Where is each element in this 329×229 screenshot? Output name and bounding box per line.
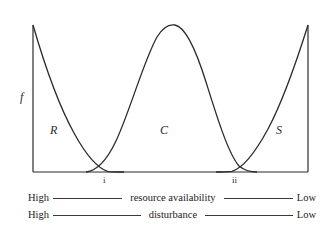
gradient-right-label-resource: Low [297, 192, 316, 203]
gradient-rule-right-disturbance [205, 215, 293, 216]
gradient-row-disturbance: High disturbance Low [28, 207, 316, 222]
y-axis-label: f [20, 91, 23, 103]
tick-label-crossing-right: ii [232, 176, 237, 185]
region-label-r: R [50, 124, 58, 136]
gradient-left-label-resource: High [28, 192, 49, 203]
figure-container: f R C S i ii High resource availability … [0, 0, 329, 229]
region-label-s: S [276, 124, 282, 136]
gradient-name-resource: resource availability [126, 192, 219, 203]
tick-label-crossing-left: i [103, 176, 106, 185]
curve-r [33, 25, 124, 172]
curve-c [86, 25, 257, 172]
gradient-rule-left-disturbance [53, 215, 141, 216]
gradient-row-resource-availability: High resource availability Low [28, 190, 316, 205]
gradient-name-disturbance: disturbance [145, 209, 201, 220]
gradient-rule-right-resource [224, 198, 293, 199]
region-label-c: C [160, 124, 168, 136]
gradient-left-label-disturbance: High [28, 209, 49, 220]
gradient-right-label-disturbance: Low [297, 209, 316, 220]
gradient-rule-left-resource [53, 198, 122, 199]
